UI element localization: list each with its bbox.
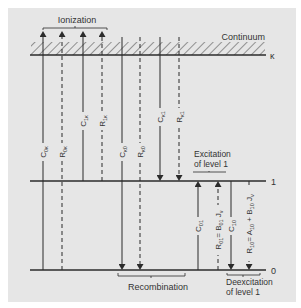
continuum-hatch (31, 42, 265, 55)
continuum-label: Continuum (221, 32, 265, 42)
transition-label-C1k: C1κ (78, 112, 89, 130)
excitation-label-line1: Excitation (194, 149, 231, 159)
deexcitation-label-line2: of level 1 (226, 287, 260, 297)
level-kappa-label: κ (270, 51, 275, 61)
excitation-label-line2: of level 1 (194, 159, 228, 169)
energy-level-diagram: Continuum κ 1 0 Ionization C0κ R0κ C1κ R… (0, 0, 301, 308)
level-1-label: 1 (271, 177, 276, 187)
transition-label-Rk0: Rκ0 (135, 143, 146, 161)
transition-label-R01: R01= B01 Jν (213, 205, 224, 255)
transition-label-Ck0: Cκ0 (117, 143, 128, 161)
level-0-label: 0 (271, 266, 276, 276)
ionization-label: Ionization (58, 15, 97, 25)
transition-label-R1k: R1κ (97, 112, 108, 130)
transition-label-C0k: C0κ (38, 143, 49, 161)
deexcitation-label-line1: Deexcitation (226, 277, 273, 287)
recombination-label: Recombination (128, 282, 188, 292)
transition-label-Rk1: Rκ1 (174, 108, 185, 126)
transition-label-C10: C10 (226, 217, 237, 235)
transition-label-R0k: R0κ (57, 143, 68, 161)
transition-label-C01: C01 (193, 217, 204, 235)
transition-label-Ck1: Cκ1 (155, 108, 166, 126)
transition-label-R10: R10= A10 + B10 Jν (244, 187, 255, 261)
